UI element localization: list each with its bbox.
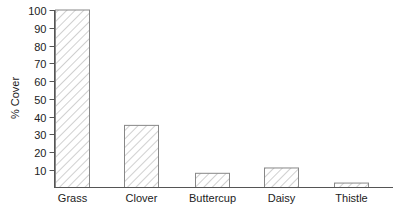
y-tick-label: 60 (34, 76, 46, 88)
y-axis-ticks: 102030405060708090100 (28, 5, 54, 177)
x-category-label: Buttercup (189, 192, 236, 204)
y-tick-label: 30 (34, 129, 46, 141)
x-category-label: Thistle (335, 192, 367, 204)
y-tick-label: 80 (34, 41, 46, 53)
bar-clover (125, 125, 159, 187)
x-category-label: Daisy (268, 192, 296, 204)
bar-daisy (265, 168, 299, 188)
bar-grass (56, 10, 90, 188)
y-tick-label: 70 (34, 58, 46, 70)
y-tick-label: 40 (34, 112, 46, 124)
bar-buttercup (196, 173, 230, 187)
y-tick-label: 100 (28, 5, 46, 17)
y-tick-label: 20 (34, 147, 46, 159)
bar-thistle (335, 183, 369, 187)
y-axis-title: % Cover (9, 77, 21, 120)
x-category-label: Clover (126, 192, 158, 204)
bars (56, 10, 369, 188)
x-category-label: Grass (58, 192, 88, 204)
y-tick-label: 90 (34, 23, 46, 35)
bar-chart: % Cover 102030405060708090100 GrassClove… (0, 0, 402, 213)
x-axis-labels: GrassCloverButtercupDaisyThistle (58, 192, 368, 204)
y-tick-label: 10 (34, 165, 46, 177)
y-tick-label: 50 (34, 94, 46, 106)
